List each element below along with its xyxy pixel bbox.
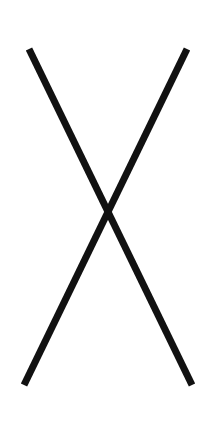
ascending-stroke (24, 49, 187, 385)
x-cross-icon (0, 0, 212, 430)
descending-stroke (29, 49, 192, 385)
x-figure-canvas (0, 0, 212, 430)
